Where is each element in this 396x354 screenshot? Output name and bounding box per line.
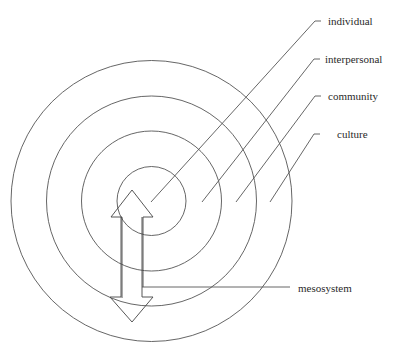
ecological-model-diagram: individual interpersonal community cultu…	[0, 0, 396, 354]
leader-line-individual	[151, 21, 321, 202]
label-community: community	[328, 90, 378, 102]
label-culture: culture	[337, 128, 368, 140]
leader-line-community	[236, 96, 321, 202]
label-individual: individual	[328, 15, 373, 27]
label-interpersonal: interpersonal	[325, 53, 382, 65]
label-mesosystem: mesosystem	[298, 282, 352, 294]
leader-line-culture	[270, 134, 320, 202]
